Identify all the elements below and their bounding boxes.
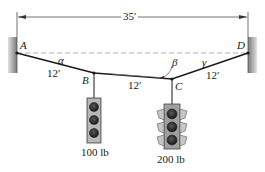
traffic-signal-100lb-icon [87, 98, 101, 143]
span-dimension-label: 35′ [121, 11, 138, 22]
gamma-angle-label: γ [202, 57, 206, 68]
cable-traffic-signal-diagram: 35′ A B C D α β γ 12′ 12′ 12′ 100 lb 200… [0, 0, 265, 172]
point-c-label: C [175, 81, 182, 92]
alpha-angle-label: α [58, 55, 64, 66]
point-a-label: A [20, 40, 27, 51]
right-wall-support [248, 37, 257, 73]
segment-ab-length: 12′ [47, 68, 60, 79]
point-b-label: B [82, 75, 89, 86]
point-d-label: D [237, 40, 245, 51]
left-wall-support [8, 37, 17, 73]
load-b-weight-label: 100 lb [81, 147, 109, 158]
load-c-weight-label: 200 lb [157, 154, 185, 165]
traffic-signal-200lb-icon [157, 104, 187, 149]
beta-angle-label: β [172, 57, 177, 68]
segment-cd-length: 12′ [206, 70, 219, 81]
segment-bc-length: 12′ [128, 80, 141, 91]
